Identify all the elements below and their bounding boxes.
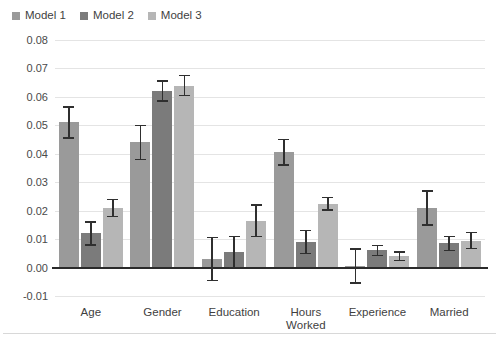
error-bar-cap-lower: [372, 255, 383, 257]
plot-area: 0.080.070.060.050.040.030.020.010.00-0.0…: [55, 40, 485, 296]
bar[interactable]: [318, 204, 338, 268]
bar-slot: [389, 40, 409, 296]
bar-group: Education: [198, 40, 270, 296]
error-bar-cap-lower: [394, 260, 405, 262]
bar-slot: [224, 40, 244, 296]
bar-slot: [202, 40, 222, 296]
legend-label: Model 2: [93, 10, 134, 22]
error-bar-cap-upper: [85, 221, 96, 223]
error-bar-cap-lower: [466, 248, 477, 250]
error-bar: [305, 231, 307, 254]
error-bar-cap-upper: [444, 236, 455, 238]
error-bar: [140, 125, 142, 159]
error-bar-cap-lower: [229, 267, 240, 269]
legend-entry[interactable]: Model 1: [12, 10, 66, 22]
x-axis-tick-label: Education: [198, 306, 270, 319]
x-axis-tick-label: Gender: [127, 306, 199, 319]
error-bar-cap-lower: [251, 236, 262, 238]
legend-label: Model 3: [161, 10, 202, 22]
bar[interactable]: [152, 91, 172, 267]
error-bar: [90, 222, 92, 245]
error-bar: [68, 107, 70, 138]
bar-slot: [439, 40, 459, 296]
y-axis-tick-label: 0.01: [27, 233, 48, 245]
legend-swatch-icon: [12, 12, 20, 20]
chart-legend: Model 1Model 2Model 3: [12, 8, 202, 24]
error-bar-cap-lower: [85, 244, 96, 246]
error-bar-cap-lower: [444, 250, 455, 252]
error-bar-cap-lower: [350, 282, 361, 284]
bar-slot: [130, 40, 150, 296]
bar-group: Gender: [127, 40, 199, 296]
error-bar-cap-upper: [300, 230, 311, 232]
legend-entry[interactable]: Model 3: [148, 10, 202, 22]
error-bar-cap-lower: [135, 159, 146, 161]
error-bar-cap-upper: [322, 197, 333, 199]
error-bar: [184, 76, 186, 96]
error-bar-cap-lower: [278, 164, 289, 166]
bar-chart: Model 1Model 2Model 3 0.080.070.060.050.…: [0, 0, 499, 346]
y-axis-tick-label: 0.05: [27, 119, 48, 131]
bar-group: Hours Worked: [270, 40, 342, 296]
error-bar: [448, 236, 450, 250]
error-bar: [355, 249, 357, 283]
error-bar-cap-upper: [251, 204, 262, 206]
x-axis-tick-label: Hours Worked: [270, 306, 342, 332]
error-bar: [470, 233, 472, 249]
bar-slot: [246, 40, 266, 296]
error-bar-cap-lower: [207, 280, 218, 282]
bar-group: Age: [55, 40, 127, 296]
bar-slot: [174, 40, 194, 296]
error-bar: [233, 236, 235, 267]
legend-swatch-icon: [148, 12, 156, 20]
bar[interactable]: [59, 122, 79, 267]
bar-slot: [367, 40, 387, 296]
error-bar-cap-upper: [372, 245, 383, 247]
bar-group: Married: [413, 40, 485, 296]
gridline: [55, 296, 485, 297]
x-axis-tick-label: Experience: [342, 306, 414, 319]
error-bar: [327, 197, 329, 210]
y-axis-tick-label: 0.03: [27, 176, 48, 188]
error-bar-cap-upper: [157, 80, 168, 82]
bar[interactable]: [130, 142, 150, 267]
error-bar-cap-upper: [466, 232, 477, 234]
error-bar-cap-upper: [179, 75, 190, 77]
x-axis-tick-label: Married: [413, 306, 485, 319]
bar-slot: [274, 40, 294, 296]
error-bar-cap-upper: [63, 106, 74, 108]
legend-label: Model 1: [25, 10, 66, 22]
bar[interactable]: [174, 86, 194, 268]
legend-entry[interactable]: Model 2: [80, 10, 134, 22]
y-axis-tick-label: 0.06: [27, 91, 48, 103]
error-bar-cap-lower: [157, 100, 168, 102]
error-bar-cap-upper: [422, 190, 433, 192]
error-bar-cap-upper: [350, 248, 361, 250]
bottom-divider: [3, 333, 496, 334]
bar-slot: [59, 40, 79, 296]
error-bar-cap-lower: [179, 95, 190, 97]
x-axis-tick-label: Age: [55, 306, 127, 319]
error-bar-cap-upper: [207, 237, 218, 239]
bar-slot: [461, 40, 481, 296]
error-bar-cap-upper: [278, 139, 289, 141]
bar-slot: [296, 40, 316, 296]
error-bar-cap-lower: [63, 137, 74, 139]
zero-baseline: [52, 267, 488, 269]
bar-slot: [318, 40, 338, 296]
y-axis-tick-label: 0.08: [27, 34, 48, 46]
error-bar: [162, 81, 164, 101]
bar-group: Experience: [342, 40, 414, 296]
error-bar-cap-lower: [422, 224, 433, 226]
error-bar-cap-upper: [135, 125, 146, 127]
error-bar: [112, 199, 114, 216]
error-bar-cap-lower: [107, 216, 118, 218]
y-axis-tick-label: 0.00: [27, 262, 48, 274]
error-bar-cap-upper: [229, 236, 240, 238]
error-bar-cap-upper: [394, 251, 405, 253]
y-axis-tick-label: 0.07: [27, 62, 48, 74]
bar-slot: [345, 40, 365, 296]
error-bar: [211, 238, 213, 281]
error-bar: [426, 191, 428, 225]
bar[interactable]: [274, 152, 294, 267]
